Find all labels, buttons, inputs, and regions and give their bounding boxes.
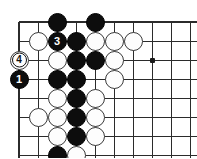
stone-layer: 3412 <box>0 0 197 158</box>
stone-black[interactable] <box>67 51 86 70</box>
stone-black[interactable] <box>67 108 86 127</box>
stone-white[interactable] <box>86 32 105 51</box>
stone-white[interactable] <box>48 108 67 127</box>
move-number-label: 1 <box>16 73 22 84</box>
stone-white[interactable] <box>29 32 48 51</box>
stone-white[interactable] <box>105 70 124 89</box>
stone-white[interactable] <box>105 51 124 70</box>
move-number-label: 4 <box>12 52 27 67</box>
stone-white[interactable] <box>124 32 143 51</box>
stone-white[interactable] <box>48 89 67 108</box>
stone-move-1[interactable]: 1 <box>10 70 29 89</box>
go-board-diagram: 3412 <box>0 0 197 158</box>
stone-black[interactable] <box>67 32 86 51</box>
stone-black[interactable] <box>48 146 67 159</box>
stone-black[interactable] <box>67 89 86 108</box>
stone-black[interactable] <box>48 13 67 32</box>
stone-move-3[interactable]: 3 <box>48 32 67 51</box>
stone-black[interactable] <box>67 70 86 89</box>
stone-white[interactable] <box>86 89 105 108</box>
stone-black[interactable] <box>86 13 105 32</box>
stone-white[interactable] <box>48 51 67 70</box>
stone-white[interactable] <box>29 108 48 127</box>
stone-white[interactable] <box>86 108 105 127</box>
stone-white[interactable] <box>86 127 105 146</box>
stone-move-4[interactable]: 4 <box>10 51 29 70</box>
stone-black[interactable] <box>48 70 67 89</box>
stone-black[interactable] <box>67 127 86 146</box>
stone-white[interactable] <box>67 146 86 159</box>
stone-black[interactable] <box>86 51 105 70</box>
stone-white[interactable] <box>48 127 67 146</box>
move-number-label: 3 <box>54 35 60 46</box>
stone-white[interactable] <box>105 32 124 51</box>
